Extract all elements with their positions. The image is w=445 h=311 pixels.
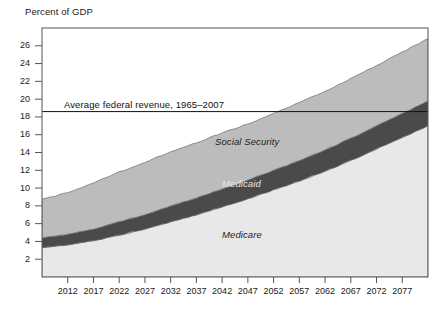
stacked-area-chart <box>0 0 445 311</box>
x-tick-label: 2077 <box>382 287 422 296</box>
y-tick-label: 16 <box>8 130 30 139</box>
y-tick-label: 18 <box>8 112 30 121</box>
y-tick-label: 24 <box>8 59 30 68</box>
y-tick-label: 12 <box>8 166 30 175</box>
y-tick-label: 2 <box>8 255 30 264</box>
plot-area: 2468101214161820222426 20122017202220272… <box>0 0 445 311</box>
y-tick-label: 4 <box>8 237 30 246</box>
y-tick-label: 20 <box>8 95 30 104</box>
average-revenue-label: Average federal revenue, 1965–2007 <box>64 99 224 110</box>
y-tick-label: 8 <box>8 201 30 210</box>
y-tick-label: 10 <box>8 184 30 193</box>
series-label-medicare: Medicare <box>222 229 262 240</box>
series-label-medicaid: Medicaid <box>222 178 261 189</box>
y-tick-label: 6 <box>8 219 30 228</box>
chart-figure: Percent of GDP 2468101214161820222426 20… <box>0 0 445 311</box>
y-axis-ticks <box>35 46 42 259</box>
y-tick-label: 22 <box>8 77 30 86</box>
series-label-social-security: Social Security <box>215 136 279 147</box>
y-tick-label: 26 <box>8 41 30 50</box>
x-axis-ticks <box>68 277 403 283</box>
y-tick-label: 14 <box>8 148 30 157</box>
